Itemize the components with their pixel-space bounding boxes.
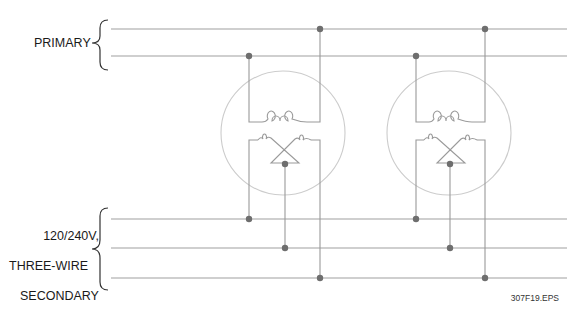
junction-dot	[447, 161, 453, 167]
junction-dot	[317, 275, 323, 281]
junction-dot	[482, 275, 488, 281]
transformer-diagram	[0, 0, 580, 314]
junction-dot	[413, 216, 419, 222]
transformer-2-secondary-lead-b	[477, 140, 485, 278]
transformer-1-primary-lead-a	[249, 56, 262, 122]
transformer-2-tank	[387, 71, 511, 195]
transformer-1-primary-winding	[262, 111, 307, 122]
transformer-1-tank	[221, 71, 345, 195]
transformer-2-primary-lead-b	[472, 29, 485, 122]
transformer-2-secondary-winding	[424, 134, 477, 163]
secondary-brace	[92, 208, 108, 290]
junction-dot	[246, 53, 252, 59]
transformer-2	[387, 29, 511, 278]
junction-dot	[482, 26, 488, 32]
transformer-2-secondary-lead-a	[416, 140, 424, 219]
junction-dot	[282, 161, 288, 167]
transformer-1-secondary-winding	[258, 134, 311, 163]
junction-dot	[447, 245, 453, 251]
transformer-2-primary-winding	[429, 111, 472, 122]
junction-dot	[413, 53, 419, 59]
primary-brace	[92, 20, 108, 70]
transformer-1-primary-lead-b	[307, 29, 320, 122]
transformer-1-secondary-lead-b	[311, 140, 320, 278]
junction-dot	[246, 216, 252, 222]
junction-dot	[317, 26, 323, 32]
transformer-1-secondary-lead-a	[249, 140, 258, 219]
transformer-1	[221, 29, 345, 278]
connection-dots	[246, 26, 488, 281]
junction-dot	[282, 245, 288, 251]
transformer-2-primary-lead-a	[416, 56, 429, 122]
secondary-lines	[111, 219, 567, 278]
primary-lines	[111, 29, 567, 56]
